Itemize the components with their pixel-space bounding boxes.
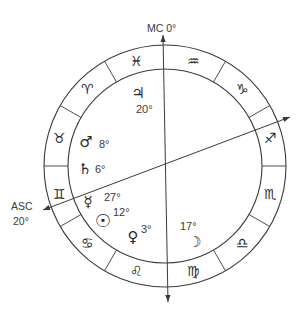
planet-venus: ♀︎3° [128, 223, 152, 246]
asc-degree-label: 20° [13, 215, 29, 227]
chart-axes: MC 0° ASC 20° [11, 22, 290, 302]
mc-label: MC 0° [147, 22, 176, 34]
sign-divider [60, 106, 81, 118]
asc-arrow-icon [43, 205, 50, 210]
sign-pisces-icon: ♓︎ [130, 53, 143, 69]
sign-taurus-icon: ♉︎ [53, 130, 66, 146]
mars-degree: 8° [99, 138, 110, 150]
planet-saturn: ♄︎6° [78, 160, 105, 178]
sun-degree: 12° [113, 206, 130, 218]
venus-icon: ♀︎ [128, 228, 139, 246]
moon-icon: ☽︎ [188, 233, 201, 251]
sign-gemini-icon: ♊︎ [53, 186, 66, 202]
sun-icon: ☉︎ [95, 210, 111, 231]
planet-moon: ☽︎17° [180, 220, 202, 251]
sign-divider [249, 106, 270, 118]
venus-degree: 3° [141, 223, 152, 235]
sign-aquarius-icon: ♒︎ [187, 53, 200, 69]
sign-sagittarius-icon: ♐︎ [264, 130, 277, 146]
sign-leo-icon: ♌︎ [130, 263, 143, 279]
sign-virgo-icon: ♍︎ [187, 263, 200, 279]
moon-degree: 17° [180, 220, 197, 232]
mc-arrow-icon [160, 35, 165, 42]
sign-libra-icon: ♎︎ [236, 235, 249, 251]
sign-scorpio-icon: ♏︎ [264, 186, 277, 202]
mc-ic-axis-line [163, 35, 168, 302]
sign-divider [105, 61, 117, 82]
saturn-degree: 6° [95, 163, 106, 175]
asc-label: ASC [11, 200, 33, 212]
ic-arrow-icon [165, 295, 170, 302]
mercury-degree: 27° [104, 191, 121, 203]
sign-divider [214, 250, 226, 271]
jupiter-degree: 20° [136, 103, 153, 115]
sign-divider [214, 61, 226, 82]
planet-jupiter: ♃︎20° [131, 84, 152, 115]
mercury-icon: ☿︎ [83, 193, 92, 211]
sign-divider [249, 215, 270, 227]
sign-capricorn-icon: ♑︎ [236, 81, 249, 97]
sign-divider [60, 215, 81, 227]
sign-divider [105, 250, 117, 271]
sign-aries-icon: ♈︎ [81, 81, 94, 97]
jupiter-icon: ♃︎ [131, 84, 144, 102]
mars-icon: ♂︎ [79, 133, 92, 151]
sign-cancer-icon: ♋︎ [81, 235, 94, 251]
saturn-icon: ♄︎ [78, 160, 91, 178]
planet-sun: ☉︎12° [95, 206, 130, 231]
planet-mars: ♂︎8° [79, 133, 109, 151]
astrology-chart: MC 0° ASC 20° ♓︎♒︎♑︎♐︎♏︎♎︎♍︎♌︎♋︎♊︎♉︎♈︎ ♃… [0, 0, 305, 313]
planets: ♃︎20°♂︎8°♄︎6°☿︎27°☉︎12°♀︎3°☽︎17° [78, 84, 201, 251]
dsc-arrow-icon [283, 117, 290, 122]
